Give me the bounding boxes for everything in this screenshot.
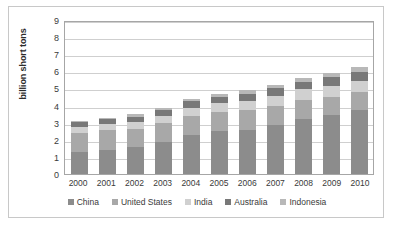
y-axis-tick-label: 5 [37, 85, 59, 94]
x-axis-tick-label: 2004 [177, 178, 205, 188]
bar-segment-united-states[interactable] [239, 110, 256, 130]
x-axis-tick-label: 2003 [149, 178, 177, 188]
bar-segment-china[interactable] [71, 152, 88, 174]
bar-segment-china[interactable] [99, 150, 116, 174]
bar-segment-australia[interactable] [239, 94, 256, 101]
stacked-bar[interactable] [267, 85, 284, 174]
bar-group[interactable] [177, 22, 205, 174]
bar-segment-united-states[interactable] [155, 123, 172, 142]
legend-swatch-icon [112, 199, 118, 205]
legend-swatch-icon [185, 199, 191, 205]
x-axis-tick-label: 2008 [290, 178, 318, 188]
legend-label: India [194, 197, 212, 207]
stacked-bar[interactable] [155, 108, 172, 174]
bar-group[interactable] [205, 22, 233, 174]
bar-segment-australia[interactable] [295, 82, 312, 90]
bar-group[interactable] [233, 22, 261, 174]
bar-segment-australia[interactable] [211, 97, 228, 104]
y-axis-tick-label: 0 [37, 171, 59, 180]
bar-group[interactable] [65, 22, 93, 174]
stacked-bar[interactable] [323, 73, 340, 174]
chart-frame: billion short tons 0123456789 2000200120… [8, 6, 384, 218]
bar-segment-india[interactable] [183, 108, 200, 116]
bar-segment-india[interactable] [267, 96, 284, 105]
chart-legend: ChinaUnited StatesIndiaAustraliaIndonesi… [9, 197, 385, 207]
bar-segment-india[interactable] [239, 101, 256, 110]
bar-series-layer [65, 22, 373, 174]
bar-segment-united-states[interactable] [211, 112, 228, 132]
y-axis-title: billion short tons [18, 4, 28, 124]
bar-group[interactable] [261, 22, 289, 174]
bar-group[interactable] [289, 22, 317, 174]
bar-segment-united-states[interactable] [99, 130, 116, 150]
bar-segment-china[interactable] [323, 115, 340, 174]
stacked-bar[interactable] [295, 78, 312, 174]
bar-segment-china[interactable] [211, 131, 228, 174]
y-axis-tick-label: 7 [37, 51, 59, 60]
y-axis-tick-label: 9 [37, 17, 59, 26]
stacked-bar[interactable] [99, 118, 116, 174]
x-axis-tick-label: 2005 [205, 178, 233, 188]
legend-item-india[interactable]: India [185, 197, 212, 207]
bar-segment-china[interactable] [295, 119, 312, 174]
x-axis-tick-label: 2007 [261, 178, 289, 188]
legend-swatch-icon [68, 199, 74, 205]
y-axis-tick-label: 2 [37, 137, 59, 146]
y-axis-tick-label: 1 [37, 154, 59, 163]
bar-segment-china[interactable] [239, 130, 256, 174]
y-axis-tick-label: 8 [37, 34, 59, 43]
bar-segment-united-states[interactable] [295, 100, 312, 120]
stacked-bar[interactable] [351, 67, 368, 174]
bar-segment-united-states[interactable] [127, 129, 144, 148]
bar-group[interactable] [121, 22, 149, 174]
y-axis-tick-label: 4 [37, 103, 59, 112]
bar-group[interactable] [149, 22, 177, 174]
stacked-bar[interactable] [127, 114, 144, 174]
bar-group[interactable] [93, 22, 121, 174]
bar-segment-china[interactable] [155, 142, 172, 175]
bar-segment-united-states[interactable] [71, 133, 88, 152]
bar-segment-united-states[interactable] [267, 106, 284, 126]
bar-segment-india[interactable] [351, 81, 368, 92]
bar-segment-australia[interactable] [351, 72, 368, 81]
x-axis-tick-label: 2006 [233, 178, 261, 188]
plot-area [64, 21, 374, 175]
bar-segment-india[interactable] [211, 103, 228, 111]
legend-label: United States [121, 197, 172, 207]
x-axis-tick-label: 2010 [346, 178, 374, 188]
stacked-bar[interactable] [211, 94, 228, 174]
legend-item-indonesia[interactable]: Indonesia [280, 197, 326, 207]
bar-segment-china[interactable] [351, 110, 368, 174]
legend-swatch-icon [225, 199, 231, 205]
legend-item-china[interactable]: China [68, 197, 99, 207]
bar-segment-china[interactable] [267, 125, 284, 174]
stacked-bar[interactable] [183, 99, 200, 174]
bar-segment-australia[interactable] [267, 88, 284, 96]
x-axis-tick-label: 2009 [318, 178, 346, 188]
bar-segment-united-states[interactable] [351, 92, 368, 110]
y-axis-tick-label: 6 [37, 68, 59, 77]
stacked-bar[interactable] [239, 90, 256, 174]
y-axis-tick-label: 3 [37, 120, 59, 129]
legend-label: Indonesia [289, 197, 326, 207]
bar-segment-australia[interactable] [323, 77, 340, 86]
bar-segment-china[interactable] [127, 147, 144, 174]
bar-segment-india[interactable] [155, 116, 172, 123]
bar-segment-china[interactable] [183, 135, 200, 174]
bar-segment-united-states[interactable] [323, 97, 340, 115]
bar-segment-united-states[interactable] [183, 116, 200, 135]
bar-group[interactable] [345, 22, 373, 174]
stacked-bar[interactable] [71, 121, 88, 174]
legend-label: Australia [234, 197, 267, 207]
bar-segment-australia[interactable] [183, 101, 200, 108]
legend-item-australia[interactable]: Australia [225, 197, 267, 207]
bar-segment-india[interactable] [323, 86, 340, 97]
bar-segment-india[interactable] [295, 89, 312, 99]
x-axis-tick-label: 2002 [120, 178, 148, 188]
x-axis-tick-labels: 2000200120022003200420052006200720082009… [64, 178, 374, 188]
legend-item-united-states[interactable]: United States [112, 197, 172, 207]
legend-label: China [77, 197, 99, 207]
x-axis-tick-label: 2001 [92, 178, 120, 188]
bar-group[interactable] [317, 22, 345, 174]
x-axis-tick-label: 2000 [64, 178, 92, 188]
